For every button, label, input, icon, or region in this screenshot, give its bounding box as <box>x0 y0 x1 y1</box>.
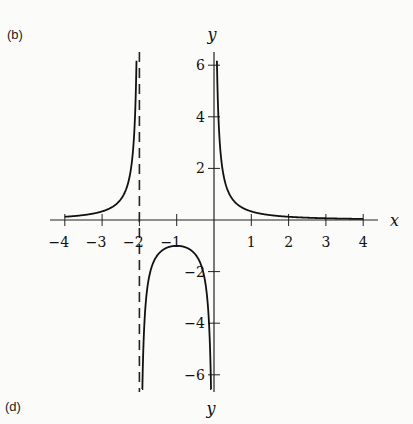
function-plot: −4−3−2−11234642−2−4−6xyy <box>0 0 413 424</box>
x-tick-label: 3 <box>321 234 330 250</box>
y-tick-label: −4 <box>184 315 205 331</box>
x-tick-label: −4 <box>48 234 69 250</box>
tick-labels: −4−3−2−11234642−2−4−6xyy <box>48 25 399 418</box>
y-tick-label: 2 <box>196 160 205 176</box>
axes <box>50 52 378 392</box>
curve-right-branch <box>217 61 363 219</box>
y-axis-label: y <box>206 25 217 44</box>
x-tick-label: −2 <box>123 234 144 250</box>
y-tick-label: −2 <box>184 264 205 280</box>
y-tick-label: −6 <box>184 367 205 383</box>
x-tick-label: 1 <box>247 234 256 250</box>
x-tick-label: −1 <box>160 234 181 250</box>
curve-left-branch <box>65 61 137 217</box>
y-tick-label: 6 <box>196 57 205 73</box>
x-tick-label: 4 <box>359 234 368 250</box>
x-tick-label: −3 <box>86 234 107 250</box>
y-tick-label: 4 <box>196 109 205 125</box>
x-tick-label: 2 <box>284 234 293 250</box>
y-axis-label-bottom: y <box>205 399 216 418</box>
x-axis-label: x <box>390 211 399 230</box>
